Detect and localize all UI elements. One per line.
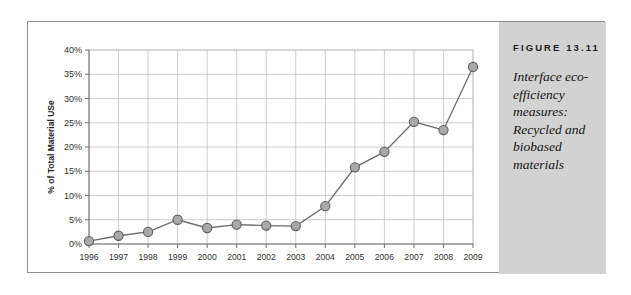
data-point-marker — [143, 227, 152, 236]
data-point-marker — [114, 231, 123, 240]
data-point-marker — [84, 236, 93, 245]
line-chart: 0%5%10%15%20%25%30%35%40%199619971998199… — [28, 22, 499, 274]
y-axis-title: % of Total Material USe — [46, 100, 56, 194]
y-tick-label: 10% — [64, 191, 82, 201]
x-tick-label: 2009 — [463, 252, 482, 262]
x-tick-label: 2003 — [286, 252, 305, 262]
series-line — [89, 67, 473, 241]
data-point-marker — [203, 223, 212, 232]
data-point-marker — [262, 221, 271, 230]
data-point-marker — [232, 220, 241, 229]
x-tick-label: 2004 — [316, 252, 335, 262]
x-tick-label: 2008 — [434, 252, 453, 262]
data-point-marker — [468, 62, 477, 71]
x-tick-label: 1999 — [168, 252, 187, 262]
figure-frame: 0%5%10%15%20%25%30%35%40%199619971998199… — [27, 21, 605, 273]
y-tick-label: 25% — [64, 118, 82, 128]
x-tick-label: 1997 — [109, 252, 128, 262]
data-point-marker — [350, 163, 359, 172]
x-tick-label: 2007 — [404, 252, 423, 262]
x-tick-label: 2000 — [198, 252, 217, 262]
y-tick-label: 0% — [69, 239, 82, 249]
x-tick-label: 2002 — [257, 252, 276, 262]
data-point-marker — [173, 215, 182, 224]
data-point-marker — [291, 221, 300, 230]
x-tick-label: 1998 — [139, 252, 158, 262]
data-point-marker — [380, 147, 389, 156]
data-point-marker — [409, 117, 418, 126]
x-tick-label: 2005 — [345, 252, 364, 262]
x-tick-label: 1996 — [79, 252, 98, 262]
y-tick-label: 40% — [64, 45, 82, 55]
y-tick-label: 30% — [64, 94, 82, 104]
data-point-marker — [439, 125, 448, 134]
y-tick-label: 35% — [64, 69, 82, 79]
data-point-marker — [321, 202, 330, 211]
y-tick-label: 5% — [69, 215, 82, 225]
figure-caption-title: FIGURE 13.11 — [513, 42, 594, 53]
y-tick-label: 15% — [64, 166, 82, 176]
figure-caption-panel: FIGURE 13.11 Interface eco-efficiency me… — [499, 22, 606, 274]
figure-caption-body: Interface eco-efficiency measures: Recyc… — [513, 68, 594, 173]
y-tick-label: 20% — [64, 142, 82, 152]
chart-plot-area: 0%5%10%15%20%25%30%35%40%199619971998199… — [28, 22, 499, 274]
x-tick-label: 2001 — [227, 252, 246, 262]
x-tick-label: 2006 — [375, 252, 394, 262]
